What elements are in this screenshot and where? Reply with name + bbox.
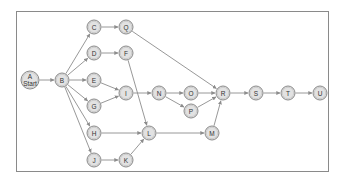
- edge-k-l: [131, 139, 144, 154]
- node-p: P: [184, 104, 198, 118]
- node-label: I: [125, 90, 127, 97]
- node-label: U: [318, 90, 323, 97]
- node-label: P: [189, 108, 193, 115]
- node-i: I: [119, 86, 133, 100]
- node-a: AStart: [21, 71, 39, 89]
- node-label: R: [221, 90, 226, 97]
- node-label: J: [92, 157, 95, 164]
- node-label: C: [92, 24, 97, 31]
- edge-m-r: [214, 101, 221, 126]
- node-l: L: [142, 126, 156, 140]
- edge-n-p: [166, 97, 184, 107]
- node-r: R: [216, 86, 230, 100]
- node-o: O: [184, 86, 198, 100]
- node-c: C: [87, 20, 101, 34]
- edge-q-r: [132, 31, 216, 88]
- node-j: J: [87, 153, 101, 167]
- node-g: G: [87, 99, 101, 113]
- node-label: Q: [123, 24, 128, 32]
- node-label: T: [286, 90, 290, 97]
- edges-layer: [40, 27, 313, 160]
- edge-b-g: [68, 85, 88, 101]
- node-n: N: [152, 86, 166, 100]
- edge-p-r: [198, 97, 216, 107]
- edge-b-c: [66, 34, 90, 74]
- node-label: H: [92, 130, 97, 137]
- node-label: G: [91, 103, 96, 110]
- edge-b-d: [68, 58, 88, 75]
- node-label: O: [188, 90, 193, 97]
- node-d: D: [87, 46, 101, 60]
- node-label: S: [254, 90, 259, 97]
- node-m: M: [205, 126, 219, 140]
- node-h: H: [87, 126, 101, 140]
- node-s: S: [249, 86, 263, 100]
- node-label: B: [60, 77, 64, 84]
- node-k: K: [119, 153, 133, 167]
- edge-e-i: [101, 83, 119, 90]
- node-label: L: [147, 130, 151, 137]
- nodes-layer: AStartBCQDFEGINOPRSTUHLMJK: [21, 20, 327, 167]
- node-t: T: [281, 86, 295, 100]
- node-label: D: [92, 50, 97, 57]
- node-b: B: [55, 73, 69, 87]
- network-diagram: AStartBCQDFEGINOPRSTUHLMJK: [0, 0, 340, 182]
- node-label: F: [124, 50, 128, 57]
- node-u: U: [313, 86, 327, 100]
- node-e: E: [87, 73, 101, 87]
- node-q: Q: [119, 20, 133, 34]
- edge-g-i: [101, 96, 119, 103]
- node-label: N: [157, 90, 162, 97]
- node-sublabel: Start: [23, 80, 37, 87]
- node-label: E: [92, 77, 97, 84]
- node-f: F: [119, 46, 133, 60]
- node-label: M: [209, 130, 214, 137]
- node-label: K: [124, 157, 129, 164]
- edge-b-j: [65, 87, 91, 153]
